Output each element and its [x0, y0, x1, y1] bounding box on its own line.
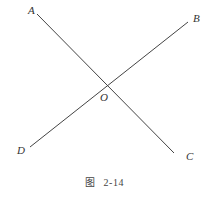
figure-canvas: A B C D O 图2-14 [0, 0, 209, 199]
line-db [30, 22, 188, 147]
point-label-o: O [100, 91, 108, 103]
intersecting-lines-diagram: A B C D O [0, 0, 209, 199]
point-label-a: A [27, 4, 35, 16]
caption-prefix: 图 [85, 177, 96, 188]
point-label-d: D [16, 144, 25, 156]
figure-caption: 图2-14 [0, 174, 209, 189]
caption-number: 2-14 [104, 177, 124, 188]
point-label-b: B [193, 12, 200, 24]
point-label-c: C [186, 150, 194, 162]
line-ac [37, 14, 174, 153]
